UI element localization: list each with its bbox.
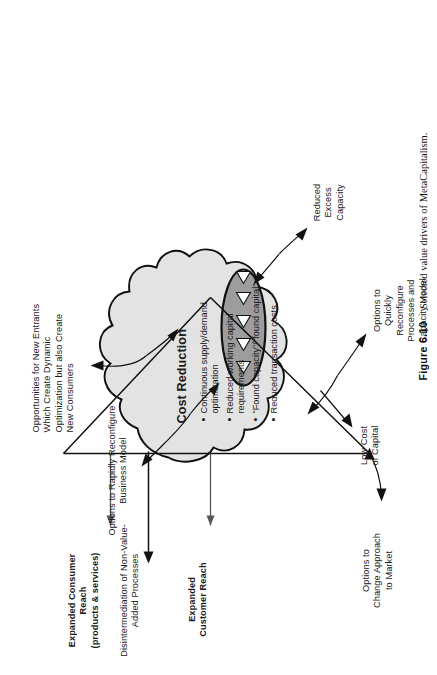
callout-line: to Market	[383, 505, 394, 635]
figure-number: Figure 6.10	[416, 321, 428, 380]
callout-low-cost-capital: Low Cost of Capital	[358, 400, 381, 490]
figure-page: Cost Reduction • Continuous supply/deman…	[0, 0, 437, 675]
callout-expanded-consumer-reach: Expanded Consumer Reach (products & serv…	[66, 530, 100, 670]
bullet-item: • Reduced working capital requirements	[224, 273, 246, 413]
figure-caption-text: Selected value drivers of MetaCapitalism…	[417, 132, 428, 308]
bullet-item: • "Found capacity"/"found capital"	[250, 263, 261, 413]
callout-line: Reconfigure	[394, 245, 405, 375]
callout-line: Customer Reach	[197, 531, 208, 667]
callout-line: Processes and	[405, 245, 416, 375]
bullet-dot: •	[267, 417, 278, 421]
callout-expanded-customer-reach: Expanded Customer Reach	[186, 531, 209, 667]
callout-line: Expanded Consumer	[66, 530, 77, 670]
callout-line: Change Approach	[371, 505, 382, 635]
bullet-dot: •	[223, 417, 234, 421]
callout-line: Expanded	[186, 531, 197, 667]
callout-line: (products & services)	[89, 530, 100, 670]
bullet-text: Continuous supply/demand optimization	[198, 302, 219, 413]
rotated-figure-canvas: Cost Reduction • Continuous supply/deman…	[0, 0, 437, 675]
bullet-text: Reduced working capital requirements	[224, 313, 245, 413]
callout-reduced-excess-capacity: Reduced Excess Capacity	[311, 159, 345, 245]
callout-line: Reach	[77, 530, 88, 670]
callout-new-entrants: Opportunities for New Entrants Which Cre…	[30, 232, 76, 432]
callout-line: Options to Rapidly Reconfigure	[106, 375, 117, 565]
callout-line: Reduced	[311, 159, 322, 245]
disintermediation-arrow	[143, 451, 153, 563]
callout-line: of Capital	[369, 400, 380, 490]
bullet-dot: •	[249, 417, 260, 421]
figure-caption: Figure 6.10 Selected value drivers of Me…	[416, 132, 428, 380]
callout-line: Options to	[371, 245, 382, 375]
callout-line: Excess	[322, 159, 333, 245]
callout-line: Disintermediation of Non-Value-	[118, 515, 129, 665]
callout-line: Opportunities for New Entrants	[30, 232, 41, 432]
bullet-text: "Found capacity"/"found capital"	[250, 283, 260, 413]
cost-reduction-title: Cost Reduction	[176, 329, 187, 423]
callout-disintermediation: Disintermediation of Non-Value- Added Pr…	[118, 515, 141, 665]
callout-line: Quickly	[382, 245, 393, 375]
callout-line: Added Processes	[129, 515, 140, 665]
callout-line: Which Create Dynamic	[41, 232, 52, 432]
bullet-item: • Continuous supply/demand optimization	[198, 273, 220, 413]
callout-line: Low Cost	[358, 400, 369, 490]
callout-change-approach: Options to Change Approach to Market	[360, 505, 394, 635]
bullet-text: Reduced transaction costs	[268, 305, 278, 413]
bullet-item: • Reduced transaction costs	[268, 263, 279, 413]
callout-line: Optimization but also Create	[53, 232, 64, 432]
callout-line: New Consumers	[64, 232, 75, 432]
bullet-dot: •	[197, 417, 208, 421]
callout-line: Options to	[360, 505, 371, 635]
callout-line: Capacity	[334, 159, 345, 245]
